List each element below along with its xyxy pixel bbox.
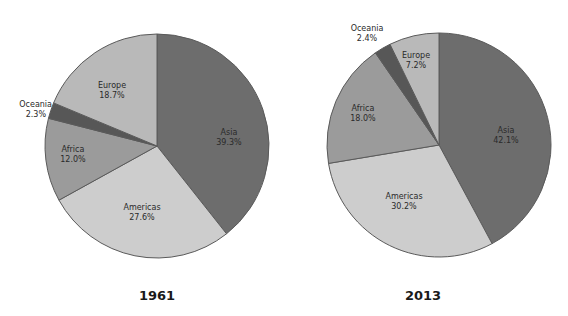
label-asia-pct: 39.3% xyxy=(216,138,242,147)
label-oceania: Oceania xyxy=(351,24,384,33)
chart-title-1961: 1961 xyxy=(15,288,299,303)
pie-1961-svg: Asia 39.3% Americas 27.6% Africa 12.0% O… xyxy=(0,0,284,316)
label-europe-pct: 18.7% xyxy=(99,91,125,100)
label-americas: Americas xyxy=(123,203,160,212)
pie-2013-svg: Asia 42.1% Americas 30.2% Africa 18.0% O… xyxy=(284,0,568,316)
pie-chart-2013: Asia 42.1% Americas 30.2% Africa 18.0% O… xyxy=(284,0,568,316)
label-oceania: Oceania xyxy=(19,100,52,109)
pie-slices xyxy=(327,33,551,257)
label-americas: Americas xyxy=(385,192,422,201)
label-asia-pct: 42.1% xyxy=(493,136,519,145)
label-africa-pct: 12.0% xyxy=(60,155,86,164)
label-oceania-pct: 2.4% xyxy=(357,34,378,43)
label-europe: Europe xyxy=(98,81,126,90)
label-asia: Asia xyxy=(221,128,238,137)
label-americas-pct: 30.2% xyxy=(391,202,417,211)
label-americas-pct: 27.6% xyxy=(129,213,155,222)
label-europe: Europe xyxy=(402,51,430,60)
pie-chart-1961: Asia 39.3% Americas 27.6% Africa 12.0% O… xyxy=(0,0,284,316)
chart-title-2013: 2013 xyxy=(281,288,565,303)
label-africa: Africa xyxy=(352,104,375,113)
label-europe-pct: 7.2% xyxy=(406,61,427,70)
label-asia: Asia xyxy=(498,126,515,135)
label-oceania-pct: 2.3% xyxy=(26,110,47,119)
label-africa-pct: 18.0% xyxy=(350,114,376,123)
label-africa: Africa xyxy=(62,145,85,154)
